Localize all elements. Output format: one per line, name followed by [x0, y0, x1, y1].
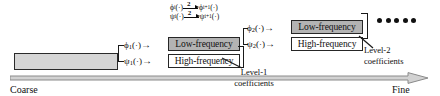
downsample-psi-from-arg: (·) [176, 12, 184, 21]
downsample-phi-to-arg: (·) [210, 3, 218, 12]
further-levels-ellipsis [377, 18, 416, 23]
level2-highpass-arrow-icon: → [265, 38, 275, 49]
level2-lowpass-arrow-icon: → [264, 22, 274, 33]
downsample-row-psi: ψi(·) 2 ψi+1(·) [170, 12, 219, 21]
level1-low-frequency-label: Low-frequency [175, 39, 232, 49]
level1-lowpass-operator: ϕ1(·)→ [124, 39, 151, 50]
level2-lowpass-operator: ϕ2(·)→ [247, 22, 274, 33]
scale-axis-coarse-label: Coarse [10, 84, 38, 95]
level2-highpass-arg: (·) [256, 39, 265, 49]
downsample-phi-to-sub: i+1 [203, 3, 210, 12]
level2-low-frequency-label: Low-frequency [298, 22, 355, 32]
level2-coefficients-caption: Level-2 coefficients [364, 45, 436, 66]
downsample-row-phi: ϕi(·) 2 ϕi+1(·) [170, 3, 219, 12]
level1-lowpass-arg: (·) [132, 40, 141, 50]
level2-split-vline [243, 28, 244, 45]
downsample-phi-from-arg: (·) [175, 3, 183, 12]
level2-high-frequency-label: High-frequency [298, 39, 357, 49]
level1-low-frequency-box: Low-frequency [168, 37, 240, 51]
level1-lowpass-arrow-icon: → [141, 39, 151, 50]
downsample-psi-to-sub: i+1 [204, 12, 211, 21]
wavelet-decomposition-diagram: ϕi(·) 2 ϕi+1(·) ψi(·) 2 ψi+1(·) ϕ1(·)→ [0, 0, 440, 96]
level2-caption-line2: coefficients [364, 56, 436, 67]
scale-axis-arrow-icon [10, 72, 430, 86]
level1-highpass-operator: ψ1(·)→ [124, 55, 152, 66]
level1-split-vline [118, 45, 119, 62]
level2-low-frequency-box: Low-frequency [291, 20, 363, 34]
input-signal-block [14, 53, 118, 70]
downsample-psi-to-arg: (·) [212, 12, 220, 21]
level1-highpass-arg: (·) [133, 56, 142, 66]
level2-high-frequency-box: High-frequency [291, 37, 363, 51]
level2-caption-line1: Level-2 [364, 45, 436, 56]
level1-highpass-arrow-icon: → [142, 55, 152, 66]
level2-highpass-operator: ψ2(·)→ [247, 38, 275, 49]
level2-lowpass-arg: (·) [255, 23, 264, 33]
scale-axis-fine-label: Fine [392, 84, 410, 95]
downsample-arrow-icon: 2 [184, 12, 199, 21]
downsample-notation: ϕi(·) 2 ϕi+1(·) ψi(·) 2 ψi+1(·) [170, 3, 219, 21]
